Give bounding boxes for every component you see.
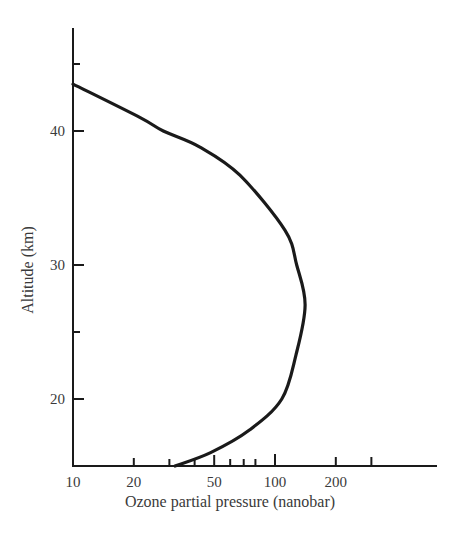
ozone-profile-chart: 203040102050100200 Ozone partial pressur… xyxy=(0,0,459,537)
axis-ticks xyxy=(73,64,371,466)
y-tick-label: 20 xyxy=(50,391,65,407)
ozone-profile-curve xyxy=(73,84,305,466)
x-tick-label: 10 xyxy=(66,474,81,490)
x-axis-title: Ozone partial pressure (nanobar) xyxy=(125,493,335,511)
x-tick-label: 100 xyxy=(264,474,287,490)
x-tick-label: 50 xyxy=(207,474,222,490)
tick-labels: 203040102050100200 xyxy=(50,123,347,490)
x-tick-label: 200 xyxy=(325,474,348,490)
axes xyxy=(72,28,437,467)
y-tick-label: 30 xyxy=(50,257,65,273)
y-axis-title: Altitude (km) xyxy=(19,226,37,314)
y-tick-label: 40 xyxy=(50,123,65,139)
x-tick-label: 20 xyxy=(126,474,141,490)
